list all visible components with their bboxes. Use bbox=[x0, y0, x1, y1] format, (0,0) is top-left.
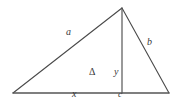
area-delta-label: Δ bbox=[89, 67, 95, 77]
side-b-line bbox=[122, 8, 169, 93]
side-a-line bbox=[13, 8, 122, 93]
side-a-label: a bbox=[66, 27, 71, 37]
triangle-graphic bbox=[0, 0, 182, 104]
height-y-label: y bbox=[114, 67, 118, 77]
base-point-c-label: c bbox=[118, 90, 122, 99]
base-segment-x-label: x bbox=[72, 89, 76, 99]
triangle-diagram: a b Δ y x c bbox=[0, 0, 182, 104]
side-b-label: b bbox=[147, 37, 152, 47]
